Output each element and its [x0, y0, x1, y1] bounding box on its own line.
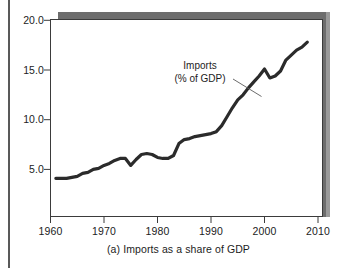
x-tick-label-1990: 1990: [191, 225, 231, 237]
x-tick-label-2010: 2010: [298, 225, 338, 237]
y-tick-label-10: 10.0: [4, 113, 44, 125]
series-annotation-label-line1: Imports: [165, 60, 235, 73]
x-tick-label-1970: 1970: [84, 225, 124, 237]
x-tick-label-2000: 2000: [245, 225, 285, 237]
y-tick-label-5: 5.0: [4, 163, 44, 175]
x-axis-ticks: [51, 217, 319, 223]
figure-caption: (a) Imports as a share of GDP: [0, 243, 357, 255]
y-tick-label-15: 15.0: [4, 64, 44, 76]
y-axis-ticks: [44, 20, 50, 169]
figure-imports-share-of-gdp: 20.0 15.0 10.0 5.0 1960 1970 1980 1990 2…: [0, 0, 357, 268]
x-tick-label-1980: 1980: [138, 225, 178, 237]
x-tick-label-1960: 1960: [31, 225, 71, 237]
y-tick-label-20: 20.0: [4, 14, 44, 26]
series-annotation-label-line2: (% of GDP): [160, 73, 240, 86]
